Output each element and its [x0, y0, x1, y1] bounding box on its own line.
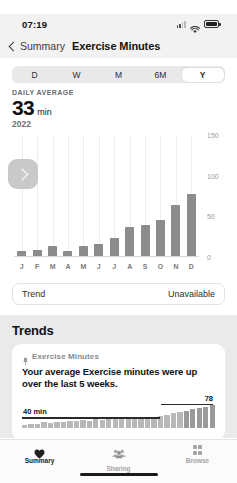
- trend-recent-label: 78: [205, 394, 213, 403]
- trend-row-label: Trend: [22, 289, 45, 299]
- chart-bar[interactable]: [110, 238, 119, 257]
- chart-bar[interactable]: [141, 225, 150, 257]
- tab-sharing[interactable]: Sharing: [79, 445, 158, 472]
- trend-mini-chart: 40 min 78: [22, 398, 215, 432]
- daily-average-unit: min: [37, 107, 52, 117]
- trend-mini-bar: [126, 419, 131, 428]
- daily-average-value: 33: [12, 97, 34, 118]
- trend-row[interactable]: Trend Unavailable: [12, 283, 225, 305]
- trend-mini-bar: [203, 407, 208, 428]
- trend-mini-bar: [210, 405, 215, 427]
- trend-mini-bar: [184, 411, 189, 428]
- trend-mini-bar: [177, 412, 182, 428]
- chart-plot-area: [14, 135, 199, 257]
- x-axis-tick-label: O: [153, 263, 168, 270]
- bar-slot[interactable]: [122, 135, 137, 257]
- pin-icon: [22, 352, 29, 361]
- chart-x-axis-labels: JFMAMJJASOND: [14, 259, 199, 273]
- bar-slot[interactable]: [76, 135, 91, 257]
- trends-section: Trends Exercise Minutes Your average Exe…: [0, 315, 237, 438]
- trend-mini-bar: [67, 421, 72, 428]
- trend-mini-bar: [22, 425, 27, 428]
- trend-mini-bar: [138, 418, 143, 428]
- trend-average-line: [22, 417, 160, 419]
- bar-slot[interactable]: [91, 135, 106, 257]
- x-axis-tick-label: D: [184, 263, 199, 270]
- bar-slot[interactable]: [14, 135, 29, 257]
- status-bar-clock: 07:19: [22, 19, 47, 30]
- trend-mini-bar: [164, 415, 169, 428]
- trends-section-title: Trends: [12, 323, 225, 338]
- x-axis-tick-label: A: [122, 263, 137, 270]
- chart-bars: [14, 135, 199, 257]
- y-axis-tick-label: 50: [207, 213, 215, 220]
- trend-card-headline: Your average Exercise minutes were up ov…: [22, 366, 215, 391]
- chart-bar[interactable]: [125, 227, 134, 257]
- bar-slot[interactable]: [107, 135, 122, 257]
- x-axis-tick-label: F: [29, 263, 44, 270]
- status-bar-icons: [177, 20, 219, 28]
- x-axis-tick-label: J: [107, 263, 122, 270]
- trend-mini-bar: [119, 418, 124, 428]
- chart-bar[interactable]: [171, 205, 180, 257]
- y-axis-tick-label: 100: [207, 172, 219, 179]
- phone-screenshot: 07:19 Summary Exercise Minutes D W M 6M …: [0, 14, 237, 483]
- tab-bar[interactable]: Summary Sharing Browse: [0, 439, 237, 483]
- trend-mini-bar: [41, 422, 46, 427]
- x-axis-tick-label: M: [76, 263, 91, 270]
- x-axis-tick-label: M: [45, 263, 60, 270]
- status-bar: 07:19: [0, 14, 237, 34]
- chart-year-label: 2022: [12, 119, 225, 129]
- segment-w[interactable]: W: [56, 68, 98, 82]
- bar-slot[interactable]: [184, 135, 199, 257]
- bar-slot[interactable]: [137, 135, 152, 257]
- tab-browse[interactable]: Browse: [158, 445, 237, 464]
- bar-slot[interactable]: [153, 135, 168, 257]
- trend-mini-bar: [106, 419, 111, 428]
- home-indicator: [80, 473, 158, 476]
- trend-card[interactable]: Exercise Minutes Your average Exercise m…: [12, 344, 225, 440]
- chevron-right-icon: [16, 168, 29, 181]
- time-range-segmented-control[interactable]: D W M 6M Y: [12, 66, 225, 83]
- trend-mini-bar: [190, 409, 195, 427]
- segment-d[interactable]: D: [14, 68, 56, 82]
- chart-baseline: [14, 256, 199, 257]
- grid-icon: [193, 445, 203, 455]
- trend-mini-bar: [100, 420, 105, 428]
- chart-bar[interactable]: [187, 194, 196, 257]
- trend-mini-bar: [35, 424, 40, 427]
- page-title: Exercise Minutes: [72, 40, 160, 52]
- bar-slot[interactable]: [29, 135, 44, 257]
- bar-slot[interactable]: [60, 135, 75, 257]
- trend-row-value: Unavailable: [168, 289, 215, 299]
- trend-mini-bar: [113, 419, 118, 427]
- chart-scroll-right-button[interactable]: [8, 159, 38, 189]
- trend-mini-bar: [171, 413, 176, 427]
- battery-icon: [204, 20, 219, 28]
- chevron-left-icon: [9, 41, 19, 51]
- trend-card-header: Exercise Minutes: [22, 352, 215, 361]
- segment-6m[interactable]: 6M: [140, 68, 182, 82]
- trend-mini-bar: [80, 420, 85, 428]
- daily-average-label: DAILY AVERAGE: [12, 89, 225, 96]
- x-axis-tick-label: J: [14, 263, 29, 270]
- segment-m[interactable]: M: [98, 68, 140, 82]
- people-icon: [112, 445, 126, 463]
- bar-slot[interactable]: [45, 135, 60, 257]
- trend-mini-bar: [74, 421, 79, 428]
- tab-summary[interactable]: Summary: [0, 445, 79, 464]
- cellular-signal-icon: [177, 21, 186, 28]
- segment-y[interactable]: Y: [182, 68, 224, 82]
- trend-mini-bar: [87, 421, 92, 428]
- trend-mini-bar: [28, 424, 33, 428]
- bar-slot[interactable]: [168, 135, 183, 257]
- daily-average-block: DAILY AVERAGE 33 min 2022: [0, 83, 237, 129]
- tab-browse-label: Browse: [186, 457, 209, 464]
- y-axis-tick-label: 0: [207, 254, 211, 261]
- exercise-minutes-bar-chart[interactable]: JFMAMJJASOND 050100150: [0, 135, 237, 275]
- chart-bar[interactable]: [156, 220, 165, 257]
- trend-mini-bars: [22, 398, 215, 428]
- chart-y-axis-labels: 050100150: [201, 135, 233, 257]
- back-button[interactable]: Summary: [10, 40, 65, 52]
- tab-sharing-label: Sharing: [106, 465, 130, 472]
